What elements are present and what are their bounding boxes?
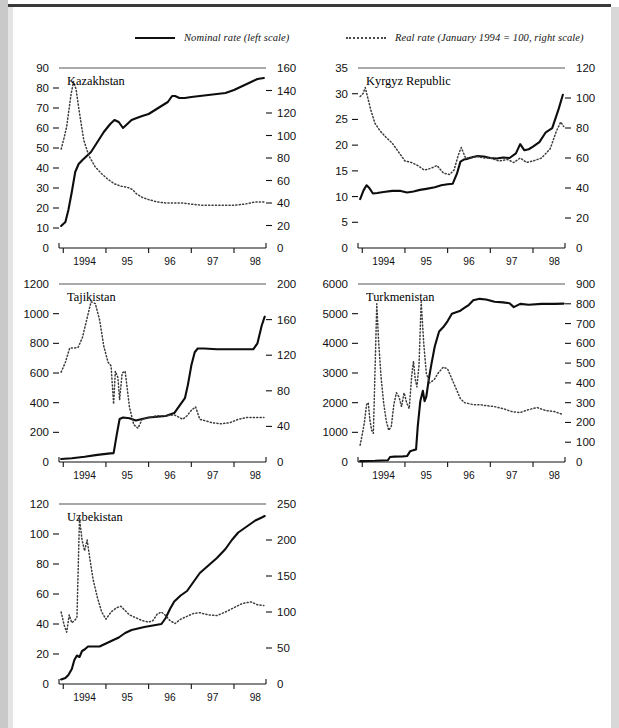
right-axis-tick-label: 40: [576, 182, 589, 194]
x-axis-tick-label: 98: [250, 470, 262, 481]
right-axis-tick-label: 160: [277, 62, 296, 74]
x-axis-tick-label: 1994: [73, 470, 96, 481]
left-axis-tick-label: 6000: [322, 278, 348, 290]
series-line-nominal-rate: [61, 317, 265, 459]
x-axis-tick-label: 95: [122, 692, 134, 703]
left-axis-tick-label: 0: [43, 456, 49, 468]
series-line-nominal-rate: [61, 78, 264, 226]
page-right-margin-band: [611, 7, 619, 728]
left-axis-tick-label: 40: [36, 162, 49, 174]
right-axis-tick-label: 60: [277, 175, 290, 187]
right-axis-tick-label: 100: [576, 92, 595, 104]
page-top-rule: [8, 4, 611, 7]
left-axis-tick-label: 20: [36, 202, 49, 214]
right-axis-tick-label: 200: [576, 416, 595, 428]
x-axis-tick-label: 96: [164, 256, 176, 267]
left-axis-tick-label: 100: [30, 528, 49, 540]
right-axis-tick-label: 80: [277, 152, 290, 164]
right-axis-tick-label: 0: [277, 678, 283, 690]
right-axis-tick-label: 40: [277, 420, 290, 432]
panel-uzbekistan: 0204060801001200501001502002501994959697…: [13, 492, 312, 714]
x-axis-tick-label: 97: [207, 692, 219, 703]
panel-title: Kyrgyz Republic: [366, 74, 451, 89]
series-line-nominal-rate: [360, 299, 564, 461]
left-axis-tick-label: 120: [30, 498, 49, 510]
legend-item-real: Real rate (January 1994 = 100, right sca…: [346, 32, 584, 43]
left-axis-tick-label: 30: [36, 182, 49, 194]
right-axis-tick-label: 20: [277, 220, 290, 232]
x-axis-tick-label: 96: [164, 692, 176, 703]
left-axis-tick-label: 10: [36, 222, 49, 234]
left-axis-tick-label: 2000: [322, 397, 348, 409]
figure-canvas: Nominal rate (left scale) Real rate (Jan…: [13, 10, 611, 724]
panel-title: Tajikistan: [67, 290, 116, 305]
panel-kyrgyz-republic: 0510152025303502040608010012019949596979…: [312, 56, 611, 278]
left-axis-tick-label: 0: [43, 242, 49, 254]
right-axis-tick-label: 20: [576, 212, 589, 224]
chart-svg: 0200400600800100012000408012016020019949…: [13, 272, 312, 492]
page-left-margin-band: [0, 0, 8, 728]
left-axis-tick-label: 30: [335, 88, 348, 100]
chart-svg: 0510152025303502040608010012019949596979…: [312, 56, 611, 278]
series-line-real-rate: [61, 518, 264, 632]
right-axis-tick-label: 250: [277, 498, 296, 510]
series-line-real-rate: [61, 82, 264, 206]
right-axis-tick-label: 120: [576, 62, 595, 74]
left-axis-tick-label: 0: [342, 242, 348, 254]
left-axis-tick-label: 60: [36, 122, 49, 134]
left-axis-tick-label: 200: [30, 426, 49, 438]
right-axis-tick-label: 150: [277, 570, 296, 582]
left-axis-tick-label: 80: [36, 82, 49, 94]
x-axis-tick-label: 96: [463, 470, 475, 481]
x-axis-tick-label: 97: [207, 256, 219, 267]
right-axis-tick-label: 400: [576, 377, 595, 389]
left-axis-tick-label: 50: [36, 142, 49, 154]
x-axis-tick-label: 98: [549, 256, 561, 267]
right-axis-tick-label: 700: [576, 318, 595, 330]
right-axis-tick-label: 0: [277, 242, 283, 254]
right-axis-tick-label: 0: [277, 456, 283, 468]
left-axis-tick-label: 35: [335, 62, 348, 74]
panel-tajikistan: 0200400600800100012000408012016020019949…: [13, 272, 312, 492]
legend-label-real: Real rate (January 1994 = 100, right sca…: [395, 32, 584, 43]
left-axis-tick-label: 3000: [322, 367, 348, 379]
right-axis-tick-label: 120: [277, 107, 296, 119]
x-axis-tick-label: 1994: [372, 256, 395, 267]
figure-page: Nominal rate (left scale) Real rate (Jan…: [0, 0, 619, 728]
panel-title: Turkmenistan: [366, 290, 434, 305]
x-axis-tick-label: 98: [250, 256, 262, 267]
x-axis-tick-label: 95: [421, 470, 433, 481]
left-axis-tick-label: 5000: [322, 308, 348, 320]
x-axis-tick-label: 95: [122, 470, 134, 481]
legend-swatch-solid-line-icon: [135, 37, 175, 39]
x-axis-tick-label: 95: [122, 256, 134, 267]
right-axis-tick-label: 160: [277, 314, 296, 326]
left-axis-tick-label: 1200: [23, 278, 49, 290]
panel-kazakhstan: 0102030405060708090020406080100120140160…: [13, 56, 312, 278]
x-axis-tick-label: 95: [421, 256, 433, 267]
panel-title: Uzbekistan: [67, 510, 123, 525]
right-axis-tick-label: 300: [576, 397, 595, 409]
right-axis-tick-label: 800: [576, 298, 595, 310]
figure-legend: Nominal rate (left scale) Real rate (Jan…: [13, 32, 611, 52]
left-axis-tick-label: 0: [342, 456, 348, 468]
x-axis-tick-label: 97: [207, 470, 219, 481]
x-axis-tick-label: 96: [463, 256, 475, 267]
left-axis-tick-label: 25: [335, 113, 348, 125]
left-axis-tick-label: 1000: [322, 426, 348, 438]
legend-item-nominal: Nominal rate (left scale): [135, 32, 289, 43]
right-axis-tick-label: 0: [576, 242, 582, 254]
panel-turkmenistan: 0100020003000400050006000010020030040050…: [312, 272, 611, 492]
x-axis-tick-label: 1994: [372, 470, 395, 481]
right-axis-tick-label: 200: [277, 534, 296, 546]
right-axis-tick-label: 80: [576, 122, 589, 134]
right-axis-tick-label: 120: [277, 349, 296, 361]
right-axis-tick-label: 500: [576, 357, 595, 369]
series-line-nominal-rate: [61, 516, 265, 680]
x-axis-tick-label: 1994: [73, 692, 96, 703]
left-axis-tick-label: 90: [36, 62, 49, 74]
left-axis-tick-label: 5: [342, 216, 348, 228]
x-axis-tick-label: 98: [250, 692, 262, 703]
right-axis-tick-label: 100: [576, 436, 595, 448]
legend-swatch-dotted-line-icon: [346, 37, 386, 39]
